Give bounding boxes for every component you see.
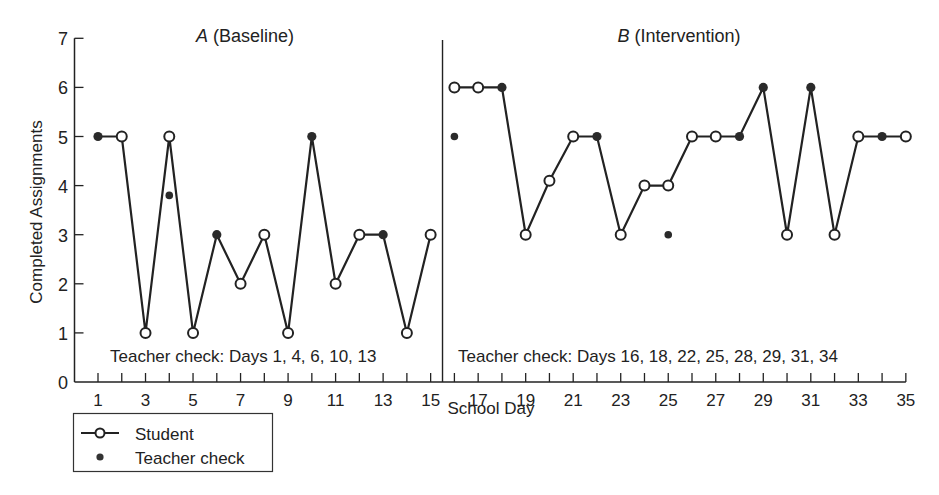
- legend-teacher-dot-icon: [96, 453, 103, 460]
- x-tick-label: 7: [236, 391, 245, 410]
- student-marker: [141, 328, 151, 338]
- student-marker: [830, 230, 840, 240]
- student-marker: [164, 132, 174, 142]
- legend-student-marker-icon: [96, 429, 105, 438]
- student-marker: [639, 181, 649, 191]
- phase-annotation: Teacher check: Days 16, 18, 22, 25, 28, …: [458, 347, 838, 366]
- y-tick-label: 0: [58, 373, 68, 393]
- student-series-line: [98, 87, 906, 333]
- x-tick-label: 23: [611, 391, 630, 410]
- x-tick-label: 33: [849, 391, 868, 410]
- student-marker: [711, 132, 721, 142]
- student-marker: [283, 328, 293, 338]
- student-marker: [782, 230, 792, 240]
- teacher-check-dot: [165, 192, 173, 200]
- y-tick-label: 1: [58, 324, 68, 344]
- x-tick-label: 11: [327, 391, 345, 410]
- teacher-check-dot: [451, 133, 459, 141]
- teacher-check-markers: [93, 83, 886, 239]
- teacher-check-dot: [735, 132, 744, 141]
- student-marker: [853, 132, 863, 142]
- phase-annotation: Teacher check: Days 1, 4, 6, 10, 13: [110, 347, 376, 366]
- student-marker: [544, 176, 554, 186]
- student-marker: [236, 279, 246, 289]
- x-tick-label: 5: [188, 391, 197, 410]
- y-axis-label: Completed Assignments: [27, 120, 46, 303]
- phase-title-intervention: B (Intervention): [617, 26, 740, 46]
- student-marker: [426, 230, 436, 240]
- student-marker: [354, 230, 364, 240]
- x-tick-label: 21: [564, 391, 583, 410]
- student-marker: [901, 132, 911, 142]
- teacher-check-dot: [806, 83, 815, 92]
- student-marker: [188, 328, 198, 338]
- teacher-check-dot: [592, 132, 601, 141]
- student-marker: [473, 82, 483, 92]
- x-tick-label: 31: [801, 391, 820, 410]
- y-tick-label: 3: [58, 226, 68, 246]
- y-tick-label: 2: [58, 275, 68, 295]
- y-tick-label: 6: [58, 78, 68, 98]
- legend-student-label: Student: [135, 425, 194, 444]
- x-tick-label: 13: [374, 391, 393, 410]
- x-axis-label: School Day: [448, 399, 535, 418]
- student-marker: [663, 181, 673, 191]
- x-tick-label: 15: [421, 391, 440, 410]
- x-tick-label: 3: [141, 391, 150, 410]
- teacher-check-dot: [877, 132, 886, 141]
- student-marker: [616, 230, 626, 240]
- student-marker: [687, 132, 697, 142]
- legend: Student Teacher check: [74, 414, 273, 472]
- x-tick-label: 9: [283, 391, 292, 410]
- teacher-check-dot: [212, 230, 221, 239]
- teacher-check-dot: [497, 83, 506, 92]
- teacher-check-dot: [664, 231, 672, 239]
- phase-title-baseline: A (Baseline): [195, 26, 294, 46]
- student-marker: [449, 82, 459, 92]
- student-marker: [568, 132, 578, 142]
- teacher-check-dot: [759, 83, 768, 92]
- legend-teacher-label: Teacher check: [135, 449, 245, 468]
- x-tick-label: 29: [754, 391, 773, 410]
- y-tick-label: 7: [58, 29, 68, 49]
- teacher-check-dot: [93, 132, 102, 141]
- student-marker: [521, 230, 531, 240]
- single-case-design-chart: 012345671357911131517192123252729313335 …: [0, 0, 939, 495]
- x-tick-label: 1: [93, 391, 102, 410]
- y-tick-label: 5: [58, 128, 68, 148]
- teacher-check-dot: [307, 132, 316, 141]
- teacher-check-dot: [379, 230, 388, 239]
- x-tick-label: 25: [659, 391, 678, 410]
- student-marker: [259, 230, 269, 240]
- student-marker: [117, 132, 127, 142]
- student-marker: [402, 328, 412, 338]
- phase-titles: A (Baseline)B (Intervention): [195, 26, 741, 46]
- x-tick-label: 27: [706, 391, 725, 410]
- x-tick-label: 35: [896, 391, 915, 410]
- student-marker: [331, 279, 341, 289]
- student-line-segment: [454, 87, 905, 234]
- y-tick-label: 4: [58, 177, 68, 197]
- teacher-check-annotations: Teacher check: Days 1, 4, 6, 10, 13Teach…: [110, 347, 838, 366]
